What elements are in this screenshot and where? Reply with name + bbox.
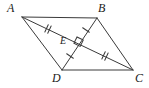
diagonal-AC bbox=[22, 17, 133, 70]
vertex-label-E: E bbox=[60, 36, 66, 46]
diagonals bbox=[22, 17, 133, 70]
tick-segment-EC bbox=[102, 52, 108, 61]
side-BC bbox=[97, 18, 133, 70]
diagonal-BD bbox=[62, 18, 97, 70]
geometry-canvas bbox=[0, 0, 149, 88]
vertex-label-D: D bbox=[52, 72, 61, 84]
side-DA bbox=[22, 17, 62, 70]
vertex-label-A: A bbox=[7, 2, 14, 14]
vertex-label-C: C bbox=[135, 72, 143, 84]
side-AB bbox=[22, 17, 97, 18]
geometry-figure: A B C D E bbox=[0, 0, 149, 88]
vertex-label-B: B bbox=[98, 2, 105, 14]
